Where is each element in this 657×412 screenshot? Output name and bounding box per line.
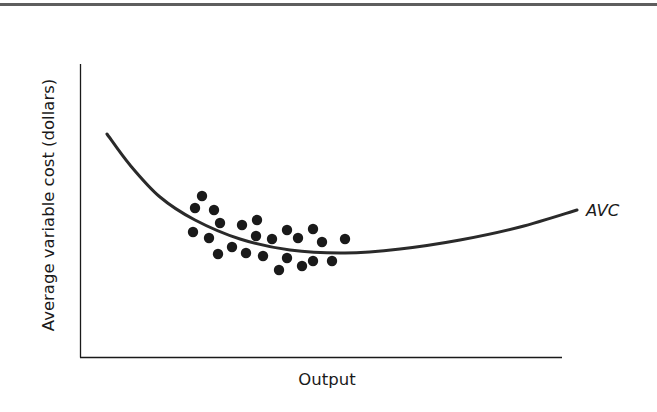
chart-canvas: [0, 0, 657, 412]
data-point: [282, 253, 292, 263]
data-point: [267, 234, 277, 244]
data-point: [297, 261, 307, 271]
data-point: [209, 205, 219, 215]
data-point: [308, 256, 318, 266]
data-point: [252, 215, 262, 225]
data-point: [237, 220, 247, 230]
data-point: [317, 237, 327, 247]
axes: [80, 64, 562, 358]
data-point: [190, 203, 200, 213]
data-point: [204, 233, 214, 243]
data-point: [188, 227, 198, 237]
data-point: [293, 233, 303, 243]
x-axis-label: Output: [298, 370, 355, 389]
data-point: [213, 249, 223, 259]
data-point: [215, 218, 225, 228]
data-point: [258, 251, 268, 261]
data-point: [197, 191, 207, 201]
y-axis-label: Average variable cost (dollars): [39, 79, 58, 331]
data-point: [251, 231, 261, 241]
data-point: [308, 224, 318, 234]
data-point: [227, 242, 237, 252]
data-point: [340, 234, 350, 244]
data-point: [274, 265, 284, 275]
avc-curve-label: AVC: [586, 201, 619, 220]
data-point: [282, 225, 292, 235]
data-point: [327, 256, 337, 266]
data-point: [241, 248, 251, 258]
scatter-points: [188, 191, 350, 275]
